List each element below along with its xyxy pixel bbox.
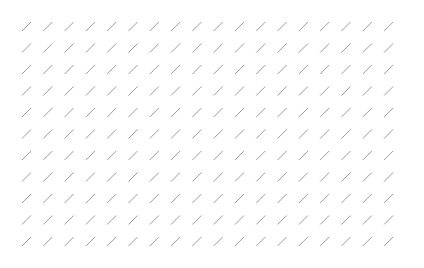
hatch-mark: [256, 194, 265, 203]
hatch-mark: [150, 65, 159, 74]
hatch-mark: [43, 87, 52, 96]
hatch-mark: [107, 87, 116, 96]
hatch-mark: [278, 22, 287, 31]
hatch-mark: [214, 173, 223, 182]
hatch-mark: [342, 237, 351, 246]
hatch-mark: [384, 87, 393, 96]
hatch-mark: [384, 151, 393, 160]
hatch-mark: [129, 237, 138, 246]
hatch-mark: [363, 130, 372, 139]
hatch-mark: [363, 237, 372, 246]
hatch-mark: [256, 130, 265, 139]
hatch-mark: [86, 216, 95, 225]
hatch-mark: [86, 130, 95, 139]
hatch-mark: [22, 216, 31, 225]
hatch-mark: [320, 237, 329, 246]
hatch-mark: [214, 216, 223, 225]
hatch-mark: [171, 151, 180, 160]
hatch-mark: [299, 130, 308, 139]
hatch-mark: [256, 151, 265, 160]
hatch-mark: [107, 151, 116, 160]
hatch-mark: [86, 22, 95, 31]
hatch-mark: [342, 22, 351, 31]
hatch-mark: [22, 237, 31, 246]
hatch-mark: [129, 44, 138, 53]
hatch-mark: [43, 151, 52, 160]
hatch-mark: [150, 108, 159, 117]
hatch-mark: [65, 130, 74, 139]
hatch-mark: [278, 237, 287, 246]
hatch-mark: [22, 130, 31, 139]
hatch-mark: [235, 194, 244, 203]
hatch-mark: [192, 87, 201, 96]
hatch-mark: [299, 173, 308, 182]
hatch-mark: [129, 130, 138, 139]
hatch-mark: [299, 87, 308, 96]
hatch-mark: [256, 65, 265, 74]
hatch-mark: [278, 151, 287, 160]
hatch-mark: [384, 44, 393, 53]
hatch-mark: [171, 22, 180, 31]
hatch-mark: [65, 151, 74, 160]
hatch-mark: [86, 87, 95, 96]
hatch-mark: [65, 194, 74, 203]
hatch-mark: [342, 65, 351, 74]
hatch-mark: [320, 87, 329, 96]
hatch-mark-grid: [0, 0, 424, 268]
hatch-mark: [363, 173, 372, 182]
hatch-mark: [214, 194, 223, 203]
hatch-mark: [299, 237, 308, 246]
hatch-mark: [299, 194, 308, 203]
hatch-mark: [171, 65, 180, 74]
hatch-mark: [43, 194, 52, 203]
hatch-mark: [65, 216, 74, 225]
hatch-mark: [86, 44, 95, 53]
hatch-mark: [129, 87, 138, 96]
hatch-mark: [192, 194, 201, 203]
hatch-mark: [171, 173, 180, 182]
hatch-mark: [129, 22, 138, 31]
hatch-mark: [214, 65, 223, 74]
hatch-mark: [278, 87, 287, 96]
hatch-mark: [299, 44, 308, 53]
hatch-mark: [256, 22, 265, 31]
hatch-mark: [65, 173, 74, 182]
hatch-mark: [43, 44, 52, 53]
hatch-mark: [299, 216, 308, 225]
hatch-mark: [192, 44, 201, 53]
hatch-mark: [214, 44, 223, 53]
hatch-mark: [171, 237, 180, 246]
hatch-mark: [278, 108, 287, 117]
hatch-mark: [192, 130, 201, 139]
hatch-mark: [363, 22, 372, 31]
hatch-mark: [43, 216, 52, 225]
hatch-mark: [299, 108, 308, 117]
hatch-mark: [214, 237, 223, 246]
hatch-mark: [86, 108, 95, 117]
hatch-mark: [256, 216, 265, 225]
hatch-mark: [65, 65, 74, 74]
hatch-mark: [235, 216, 244, 225]
hatch-mark: [342, 173, 351, 182]
hatch-mark: [171, 194, 180, 203]
hatch-mark: [22, 22, 31, 31]
hatch-mark: [320, 194, 329, 203]
hatch-mark: [192, 108, 201, 117]
hatch-mark: [171, 216, 180, 225]
hatch-mark: [320, 173, 329, 182]
hatch-mark: [384, 65, 393, 74]
hatch-mark: [129, 216, 138, 225]
hatch-mark: [363, 194, 372, 203]
hatch-mark: [129, 194, 138, 203]
hatch-mark: [320, 44, 329, 53]
hatch-mark: [192, 22, 201, 31]
hatch-mark: [43, 108, 52, 117]
hatch-mark: [235, 237, 244, 246]
hatch-mark: [363, 65, 372, 74]
hatch-mark: [192, 173, 201, 182]
hatch-mark: [384, 216, 393, 225]
hatch-mark: [192, 237, 201, 246]
hatch-mark: [171, 87, 180, 96]
hatch-mark: [43, 130, 52, 139]
hatch-mark: [363, 44, 372, 53]
